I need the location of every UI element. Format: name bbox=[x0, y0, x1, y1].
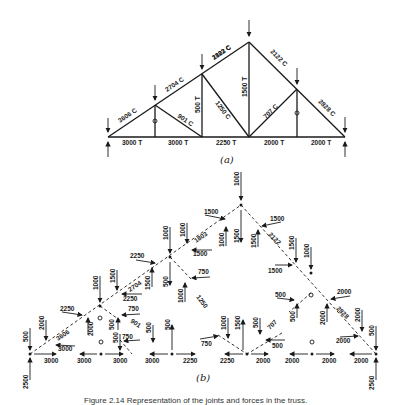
joint-node bbox=[100, 353, 103, 356]
force-label: 500 bbox=[252, 317, 259, 328]
force-label: 2000 bbox=[38, 315, 45, 330]
force-label: 1500 bbox=[250, 233, 257, 248]
force-label: 500 bbox=[272, 342, 283, 349]
zero-force-marker bbox=[99, 340, 103, 344]
force-label: 500 bbox=[289, 311, 296, 322]
member-label: 707 C bbox=[262, 102, 279, 119]
force-label: 2250 bbox=[123, 295, 138, 302]
force-label: 500 bbox=[162, 276, 169, 287]
force-label: 1500 bbox=[234, 315, 241, 330]
force-label: 2000 bbox=[336, 337, 351, 344]
force-label: 2250 bbox=[60, 305, 75, 312]
force-label: 500 bbox=[108, 319, 115, 330]
force-label: 3000 bbox=[58, 345, 73, 352]
force-label: 1000 bbox=[218, 232, 225, 247]
force-label: 1500 bbox=[193, 250, 208, 257]
joint-node bbox=[169, 256, 172, 259]
force-label: 500 bbox=[275, 291, 286, 298]
truss-figure: 3000 T 3000 T 2250 T 2000 T 2000 T 3606 … bbox=[0, 0, 405, 405]
force-label: 2000 bbox=[354, 357, 369, 364]
force-label: 3000 bbox=[145, 357, 160, 364]
force-label: 2828 bbox=[335, 305, 350, 320]
force-label: 2500 bbox=[22, 374, 29, 389]
force-label: 750 bbox=[201, 340, 212, 347]
truss-diagram-a: 3000 T 3000 T 2250 T 2000 T 2000 T 3606 … bbox=[108, 20, 345, 165]
force-label: 1500 bbox=[233, 228, 240, 243]
member-label: 3000 T bbox=[122, 139, 142, 146]
force-label: 1500 bbox=[268, 267, 283, 274]
joint-node bbox=[99, 305, 102, 308]
force-label: 500 bbox=[164, 319, 171, 330]
member-label: 1250 C bbox=[214, 99, 232, 120]
member-label: 500 T bbox=[194, 96, 201, 113]
force-label: 2000 bbox=[285, 357, 300, 364]
part-a-label: (a) bbox=[220, 154, 234, 165]
member-label: 1803 C bbox=[211, 43, 233, 61]
joint-node bbox=[240, 204, 243, 207]
member-label: 2000 T bbox=[311, 139, 331, 146]
force-label: 1803 bbox=[193, 230, 209, 244]
member-label: 3000 T bbox=[168, 139, 188, 146]
force-label: 901 bbox=[129, 317, 142, 329]
joint-node bbox=[171, 353, 174, 356]
joint-node bbox=[311, 353, 314, 356]
force-label: 1500 bbox=[288, 235, 295, 250]
force-label: 2250 bbox=[130, 252, 145, 259]
member-label: 3606 C bbox=[117, 106, 139, 124]
force-label: 2122 bbox=[267, 231, 282, 246]
force-label: 2500 bbox=[368, 375, 375, 390]
force-label: 3000 bbox=[113, 357, 128, 364]
force-label: 2000 bbox=[354, 307, 361, 322]
part-b-label: (b) bbox=[196, 372, 210, 383]
force-label: 1250 bbox=[195, 293, 210, 309]
force-label: 2000 bbox=[322, 357, 337, 364]
zero-force-marker bbox=[310, 340, 314, 344]
force-label: 3606 bbox=[55, 328, 71, 342]
force-label: 2250 bbox=[220, 357, 235, 364]
force-label: 1000 bbox=[92, 275, 99, 290]
force-label: 1000 bbox=[177, 288, 184, 303]
force-label: 2000 bbox=[337, 288, 352, 295]
force-label: 2000 bbox=[87, 321, 94, 336]
force-label: 500 bbox=[112, 332, 119, 343]
member-label: 2000 T bbox=[264, 139, 284, 146]
force-label: 3000 bbox=[77, 357, 92, 364]
force-label: 1000 bbox=[303, 243, 310, 258]
force-label: 707 bbox=[266, 318, 279, 331]
force-label: 750 bbox=[198, 268, 209, 275]
force-label: 2704 bbox=[127, 279, 143, 293]
force-label: 500 bbox=[368, 325, 375, 336]
force-label: 500 bbox=[22, 331, 29, 342]
joint-node bbox=[29, 353, 32, 356]
force-label: 1500 bbox=[109, 268, 116, 283]
force-label: 1500 bbox=[204, 208, 219, 215]
member-label: 2250 T bbox=[216, 139, 236, 146]
joint-node bbox=[246, 353, 249, 356]
joint-diagram-b: 500 2500 3000 3606 2000 3000 1000 2250 2… bbox=[22, 171, 378, 390]
force-label: 750 bbox=[122, 333, 133, 340]
member-label: 1500 T bbox=[241, 77, 248, 97]
force-label: 750 bbox=[128, 305, 139, 312]
joint-node bbox=[375, 353, 378, 356]
force-label: 1500 bbox=[270, 215, 285, 222]
force-label: 2000 bbox=[319, 310, 326, 325]
force-label: 2250 bbox=[183, 357, 198, 364]
figure-caption: Figure 2.14 Representation of the joints… bbox=[84, 396, 307, 405]
force-label: 1000 bbox=[179, 222, 186, 237]
force-label: 1000 bbox=[162, 225, 169, 240]
zero-force-marker bbox=[98, 316, 102, 320]
member-label: 2704 C bbox=[164, 75, 186, 93]
force-label: 1500 bbox=[144, 275, 151, 290]
member-label: 2828 C bbox=[317, 98, 337, 118]
force-label: 2000 bbox=[256, 357, 271, 364]
force-label: 1000 bbox=[220, 315, 227, 330]
joint-node bbox=[310, 272, 313, 275]
force-label: 500 bbox=[145, 322, 152, 333]
force-label: 1000 bbox=[233, 171, 240, 186]
force-label: 3000 bbox=[44, 357, 59, 364]
zero-force-marker bbox=[309, 293, 313, 297]
